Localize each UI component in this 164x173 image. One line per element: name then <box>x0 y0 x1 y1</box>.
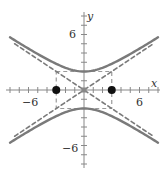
hyperbola-plot: x y −6 6 6 −6 <box>0 0 164 173</box>
x-tick-label-neg6: −6 <box>22 96 38 109</box>
y-axis-label: y <box>86 10 94 23</box>
y-tick-label-neg6: −6 <box>62 142 78 155</box>
x-axis-label: x <box>151 77 158 90</box>
x-tick-label-6: 6 <box>136 96 143 109</box>
y-tick-label-6: 6 <box>69 28 76 41</box>
